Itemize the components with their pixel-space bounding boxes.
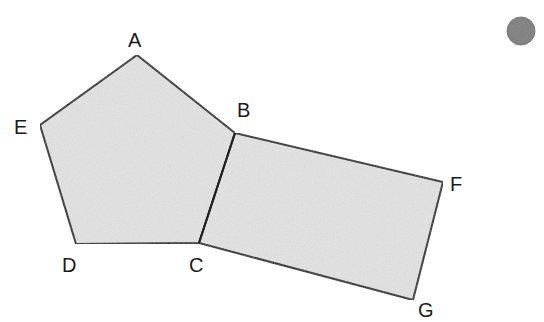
vertex-label-g: G	[418, 299, 434, 321]
vertex-label-c: C	[189, 254, 203, 276]
vertex-label-d: D	[62, 254, 76, 276]
vertex-label-b: B	[237, 99, 250, 121]
vertex-label-e: E	[14, 116, 27, 138]
vertex-label-a: A	[128, 29, 142, 51]
vertex-label-f: F	[450, 173, 462, 195]
geometry-figure: A B C D E F G	[0, 0, 544, 322]
gray-circle-marker	[507, 17, 535, 45]
geometry-canvas: A B C D E F G	[0, 0, 544, 322]
